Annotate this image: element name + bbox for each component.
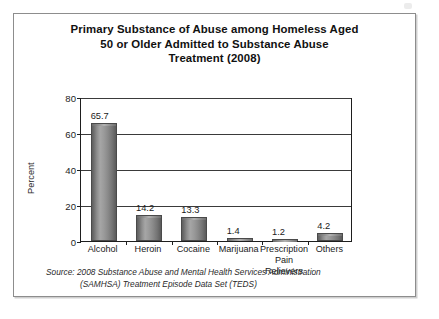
bar[interactable]	[136, 215, 162, 241]
bar-value-label: 4.2	[317, 221, 330, 231]
source-line-2: (SAMHSA) Treatment Episode Data Set (TED…	[46, 278, 402, 290]
chart-plot-area: Percent 020406080 65.714.213.31.41.24.2 …	[14, 76, 417, 261]
chart-title-line-2: 50 or Older Admitted to Substance Abuse	[32, 37, 397, 52]
y-axis-tick-label: 80	[65, 93, 76, 104]
scan-artifact	[404, 3, 412, 9]
y-axis-label: Percent	[26, 162, 36, 194]
bar[interactable]	[227, 238, 253, 241]
x-axis-category-label: Others	[301, 244, 358, 255]
chart-title-line-1: Primary Substance of Abuse among Homeles…	[32, 22, 397, 37]
bar[interactable]	[91, 123, 117, 241]
bar-value-label: 13.3	[181, 205, 199, 215]
bar-slot: 13.3	[172, 98, 217, 241]
chart-card: Primary Substance of Abuse among Homeles…	[13, 13, 416, 297]
source-line-1: Source: 2008 Substance Abuse and Mental …	[46, 267, 321, 277]
plot-canvas: 020406080 65.714.213.31.41.24.2	[80, 98, 352, 242]
bar-value-label: 65.7	[91, 111, 109, 121]
bar-slot: 1.4	[217, 98, 262, 241]
y-axis-tick-label: 60	[65, 129, 76, 140]
bar-value-label: 14.2	[136, 203, 154, 213]
y-axis-tick-mark	[77, 242, 81, 243]
chart-title-line-3: Treatment (2008)	[32, 51, 397, 66]
bar-slot: 14.2	[126, 98, 171, 241]
y-axis-tick-label: 20	[65, 201, 76, 212]
bar-value-label: 1.4	[227, 226, 240, 236]
source-note: Source: 2008 Substance Abuse and Mental …	[46, 266, 402, 291]
bar-slot: 4.2	[308, 98, 353, 241]
y-axis-tick-label: 40	[65, 165, 76, 176]
chart-title: Primary Substance of Abuse among Homeles…	[14, 14, 415, 66]
bar-slot: 65.7	[81, 98, 126, 241]
bar[interactable]	[317, 233, 343, 241]
bars-group: 65.714.213.31.41.24.2	[81, 98, 351, 241]
bar[interactable]	[181, 217, 207, 241]
bar-value-label: 1.2	[272, 227, 285, 237]
bar-slot: 1.2	[262, 98, 307, 241]
bar[interactable]	[272, 239, 298, 241]
